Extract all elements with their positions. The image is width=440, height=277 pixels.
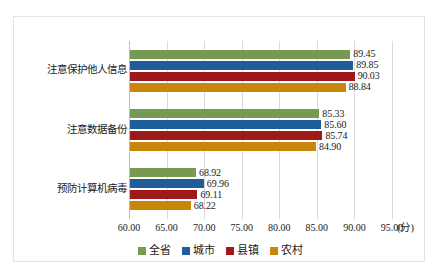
gridline <box>354 41 355 219</box>
legend-label: 农村 <box>281 245 303 256</box>
chart-frame: 89.4589.8590.0388.8485.3385.6085.7484.90… <box>13 16 425 262</box>
legend-swatch-icon <box>270 247 278 255</box>
x-tick-label: 70.00 <box>193 223 216 233</box>
bar-value-label: 85.60 <box>324 120 346 130</box>
x-tick-label: 90.00 <box>343 223 366 233</box>
x-axis-tick-labels: 60.0065.0070.0075.0080.0085.0090.0095.00… <box>14 223 426 239</box>
legend-label: 全省 <box>149 245 171 256</box>
gridline <box>392 41 393 219</box>
bar <box>129 61 353 70</box>
bar-value-label: 68.22 <box>194 201 216 211</box>
x-tick-label: 75.00 <box>230 223 253 233</box>
x-tick-label: 65.00 <box>155 223 178 233</box>
bar <box>129 72 355 81</box>
bar <box>129 142 316 151</box>
bar <box>129 201 191 210</box>
bar <box>129 179 204 188</box>
bar-value-label: 84.90 <box>319 142 341 152</box>
bar-value-label: 90.03 <box>358 71 380 81</box>
legend-label: 城市 <box>193 245 215 256</box>
bar-value-label: 68.92 <box>199 168 221 178</box>
category-label: 预防计算机病毒 <box>57 184 127 195</box>
bar-value-label: 89.45 <box>353 49 375 59</box>
y-axis-line <box>129 41 130 219</box>
x-tick-label: 85.00 <box>306 223 329 233</box>
bar <box>129 131 322 140</box>
bar <box>129 50 350 59</box>
x-axis-unit-label: (分) <box>397 223 414 234</box>
plot-area: 89.4589.8590.0388.8485.3385.6085.7484.90… <box>129 41 392 219</box>
x-tick-label: 60.00 <box>118 223 141 233</box>
bar-value-label: 85.33 <box>322 109 344 119</box>
bar-value-label: 69.96 <box>207 179 229 189</box>
bar <box>129 83 346 92</box>
bar <box>129 120 321 129</box>
category-axis-labels: 注意保护他人信息注意数据备份预防计算机病毒 <box>32 41 128 219</box>
x-tick-label: 80.00 <box>268 223 291 233</box>
legend-item[interactable]: 全省 <box>138 245 171 256</box>
legend-swatch-icon <box>182 247 190 255</box>
legend-item[interactable]: 城市 <box>182 245 215 256</box>
bar-value-label: 89.85 <box>356 60 378 70</box>
bar-value-label: 69.11 <box>200 190 222 200</box>
legend-label: 县镇 <box>237 245 259 256</box>
chart-figure: 89.4589.8590.0388.8485.3385.6085.7484.90… <box>0 0 440 277</box>
legend-item[interactable]: 县镇 <box>226 245 259 256</box>
bar-value-label: 85.74 <box>325 131 347 141</box>
bar <box>129 168 196 177</box>
bar <box>129 190 197 199</box>
legend-item[interactable]: 农村 <box>270 245 303 256</box>
chart-legend: 全省城市县镇农村 <box>14 245 426 256</box>
bar-value-label: 88.84 <box>349 82 371 92</box>
bar <box>129 109 319 118</box>
category-label: 注意数据备份 <box>67 125 127 136</box>
legend-swatch-icon <box>138 247 146 255</box>
category-label: 注意保护他人信息 <box>47 65 127 76</box>
legend-swatch-icon <box>226 247 234 255</box>
